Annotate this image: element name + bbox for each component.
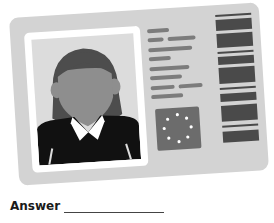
person-silhouette-icon <box>31 33 141 165</box>
answer-label: Answer <box>10 199 60 213</box>
text-line <box>148 46 192 53</box>
barcode <box>215 13 260 165</box>
text-line <box>151 93 183 99</box>
text-line <box>167 35 195 41</box>
card-text-lines <box>147 26 213 120</box>
text-line <box>147 28 169 33</box>
text-line <box>149 65 189 72</box>
photo-frame <box>24 26 149 173</box>
text-line <box>178 83 202 88</box>
id-card <box>9 2 269 185</box>
answer-blank-line[interactable] <box>64 202 164 213</box>
text-line <box>149 56 171 61</box>
text-line <box>148 37 164 42</box>
eu-flag-icon <box>155 106 202 151</box>
answer-field: Answer <box>10 199 164 213</box>
text-line <box>150 74 182 80</box>
text-line <box>151 85 175 90</box>
portrait-photo <box>31 33 141 165</box>
